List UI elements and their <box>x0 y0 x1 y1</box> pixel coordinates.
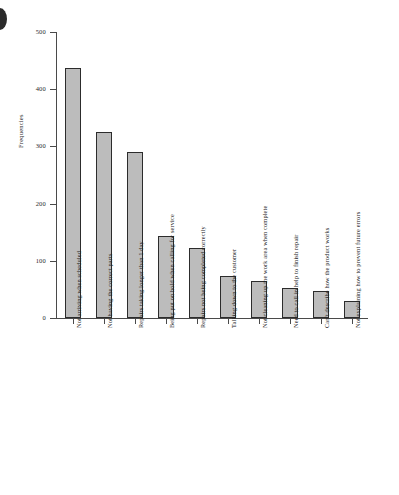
category-label: Not explaining how to prevent future err… <box>354 212 361 328</box>
x-tick <box>290 319 291 324</box>
category-label: Not arriving when scheduled <box>75 251 82 328</box>
x-tick <box>166 319 167 324</box>
x-tick <box>259 319 260 324</box>
category-label: Repairs taking longer than 1 day <box>137 241 144 328</box>
y-tick-label: 100 <box>16 257 46 264</box>
category-label: Not having the correct parts <box>106 254 113 329</box>
category-label: Not cleaning up the work area when compl… <box>261 206 268 328</box>
x-tick <box>135 319 136 324</box>
y-tick-label: 300 <box>16 142 46 149</box>
y-tick-label: 400 <box>16 85 46 92</box>
x-tick <box>352 319 353 324</box>
y-tick <box>50 318 56 319</box>
y-tick <box>50 32 56 33</box>
plot-area <box>57 32 367 318</box>
y-tick <box>50 204 56 205</box>
y-tick-label: 0 <box>16 314 46 321</box>
y-tick <box>50 146 56 147</box>
category-label: Can't describe how the product works <box>323 228 330 328</box>
page-corner-mark <box>0 8 7 30</box>
category-label: Being put on hold when calling for servi… <box>168 214 175 328</box>
x-tick <box>228 319 229 324</box>
category-label: Repairs not being completed correctly <box>199 226 206 328</box>
x-tick <box>73 319 74 324</box>
category-label: Need to call in help to finish repair <box>292 234 299 328</box>
y-tick <box>50 261 56 262</box>
y-tick <box>50 89 56 90</box>
x-tick <box>321 319 322 324</box>
category-label: Talking down to the customer <box>230 249 237 328</box>
y-tick-label: 500 <box>16 28 46 35</box>
figure-container: Frequencies 0100200300400500 Not arrivin… <box>0 0 399 495</box>
y-tick-label: 200 <box>16 200 46 207</box>
x-tick <box>197 319 198 324</box>
x-tick <box>104 319 105 324</box>
